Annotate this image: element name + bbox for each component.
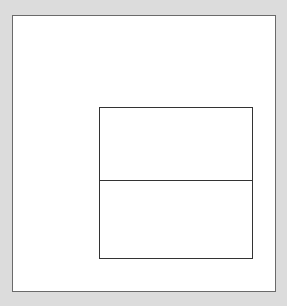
horizontal-divider [100, 180, 252, 181]
cropped-caption [40, 0, 160, 4]
inner-box [99, 107, 253, 259]
